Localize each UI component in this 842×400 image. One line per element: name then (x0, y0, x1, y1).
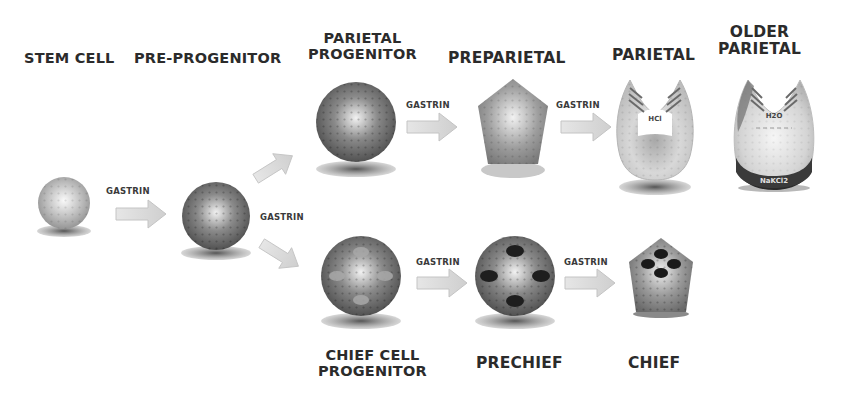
gastrin-label-4: GASTRIN (416, 257, 460, 267)
pre-progenitor-cell (178, 182, 254, 262)
label-stem-cell: STEM CELL (24, 50, 115, 66)
label-prechief: PRECHIEF (476, 355, 563, 372)
label-older-parietal-line2: PARIETAL (718, 41, 801, 58)
gastrin-label-5: GASTRIN (564, 257, 608, 267)
label-preparietal: PREPARIETAL (448, 50, 566, 67)
gastrin-arrow-5 (560, 268, 620, 298)
hcl-annotation: HCl (648, 115, 661, 123)
label-chief-cell-progenitor: CHIEF CELL PROGENITOR (318, 347, 427, 379)
label-older-parietal-line1: OLDER (718, 24, 801, 41)
chief-cell-progenitor-cell (318, 234, 404, 332)
label-parietal-progenitor-line2: PROGENITOR (308, 46, 417, 62)
nakcl2-annotation: NaKCl2 (760, 177, 788, 185)
preparietal-cell (474, 76, 552, 180)
label-parietal-progenitor-line1: PARIETAL (308, 30, 417, 46)
parietal-progenitor-cell (313, 81, 399, 181)
gastrin-arrow-up (245, 142, 303, 192)
label-parietal-progenitor: PARIETAL PROGENITOR (308, 30, 417, 62)
gastrin-label-branch: GASTRIN (260, 212, 304, 222)
label-chief-cell-progenitor-line1: CHIEF CELL (318, 347, 427, 363)
label-pre-progenitor: PRE-PROGENITOR (134, 50, 281, 66)
gastrin-label-3: GASTRIN (556, 100, 600, 110)
label-chief: CHIEF (628, 355, 680, 372)
chief-cell (626, 236, 696, 320)
gastrin-arrow-4 (412, 268, 472, 298)
gastrin-arrow-1 (112, 199, 170, 229)
label-parietal: PARIETAL (612, 47, 695, 64)
gastrin-arrow-2 (402, 112, 462, 142)
gastrin-arrow-3 (556, 112, 616, 142)
stem-cell (34, 176, 94, 240)
label-older-parietal: OLDER PARIETAL (718, 24, 801, 59)
prechief-cell (472, 234, 558, 332)
gastrin-label-1: GASTRIN (106, 186, 150, 196)
gastrin-label-2: GASTRIN (406, 100, 450, 110)
parietal-cell: HCl (612, 74, 698, 198)
h2o-annotation: H2O (766, 112, 783, 120)
label-chief-cell-progenitor-line2: PROGENITOR (318, 363, 427, 379)
gastrin-arrow-down (251, 230, 309, 280)
older-parietal-cell: H2O NaKCl2 (728, 76, 820, 194)
